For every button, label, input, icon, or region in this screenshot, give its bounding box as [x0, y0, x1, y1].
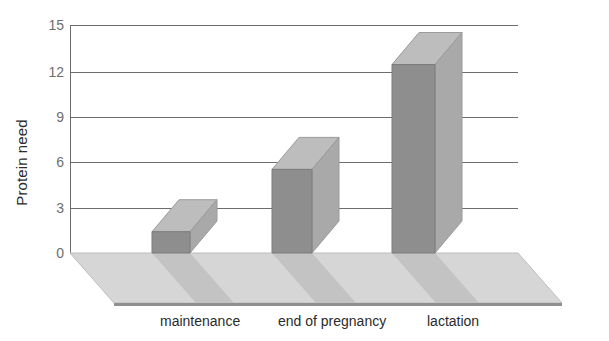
bar-lactation-side: [435, 33, 462, 253]
bar-lactation-front: [392, 65, 435, 253]
bar-maintenance-front: [152, 232, 190, 253]
bar-lactation[interactable]: [392, 33, 462, 253]
bar-maintenance[interactable]: [152, 200, 217, 253]
x-label-lactation: lactation: [427, 313, 479, 329]
bars-group: [0, 0, 609, 341]
bar-chart: Protein need 15 12 9 6 3 0: [0, 0, 609, 341]
bar-end-of-pregnancy[interactable]: [272, 137, 339, 253]
x-label-end-of-pregnancy: end of pregnancy: [278, 313, 386, 329]
x-axis-category-labels: maintenance end of pregnancy lactation: [0, 313, 609, 335]
bar-end-of-pregnancy-front: [272, 169, 312, 253]
x-label-maintenance: maintenance: [160, 313, 240, 329]
